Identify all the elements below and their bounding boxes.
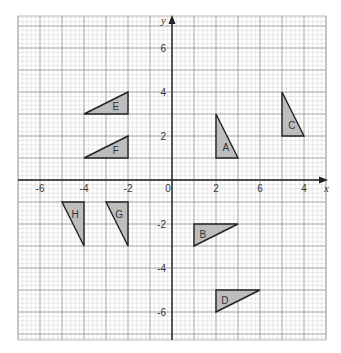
y-tick-label: 6 bbox=[160, 43, 166, 54]
y-tick-label: -2 bbox=[157, 219, 166, 230]
x-tick-label: 2 bbox=[213, 183, 219, 194]
triangle-label: A bbox=[223, 142, 230, 153]
y-tick-label: -4 bbox=[157, 263, 166, 274]
x-tick-label: -2 bbox=[124, 183, 133, 194]
y-tick-label: -6 bbox=[157, 307, 166, 318]
triangle-label: D bbox=[221, 295, 228, 306]
y-axis-label: y bbox=[160, 14, 166, 26]
triangle-label: H bbox=[72, 209, 79, 220]
x-tick-label: 0 bbox=[165, 183, 171, 194]
x-tick-label: 6 bbox=[257, 183, 263, 194]
x-tick-label: 4 bbox=[301, 183, 307, 194]
x-tick-label: -6 bbox=[36, 183, 45, 194]
y-tick-label: 2 bbox=[160, 131, 166, 142]
x-tick-label: -4 bbox=[80, 183, 89, 194]
coordinate-grid: ABCDEFGH x y -6-4-20264642-2-4-6 bbox=[0, 0, 341, 353]
y-tick-label: 4 bbox=[160, 87, 166, 98]
triangle-label: G bbox=[115, 209, 123, 220]
triangle-label: F bbox=[113, 145, 119, 156]
triangle-label: E bbox=[113, 101, 120, 112]
x-axis-label: x bbox=[323, 182, 329, 194]
triangle-label: C bbox=[288, 120, 295, 131]
triangle-label: B bbox=[199, 229, 206, 240]
